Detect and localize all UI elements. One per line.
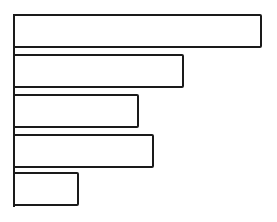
bar-1: 247 — [13, 14, 262, 48]
bar-2: 169 — [13, 54, 184, 88]
bar-value: 124 — [15, 96, 16, 97]
bar-value: 169 — [15, 56, 16, 57]
bar-value: 64 — [15, 174, 16, 175]
bar-value: 247 — [15, 16, 16, 17]
bar-5: 64 — [13, 172, 79, 206]
bar-value: 139 — [15, 136, 16, 137]
bar-3: 124 — [13, 94, 139, 128]
bar-4: 139 — [13, 134, 154, 168]
